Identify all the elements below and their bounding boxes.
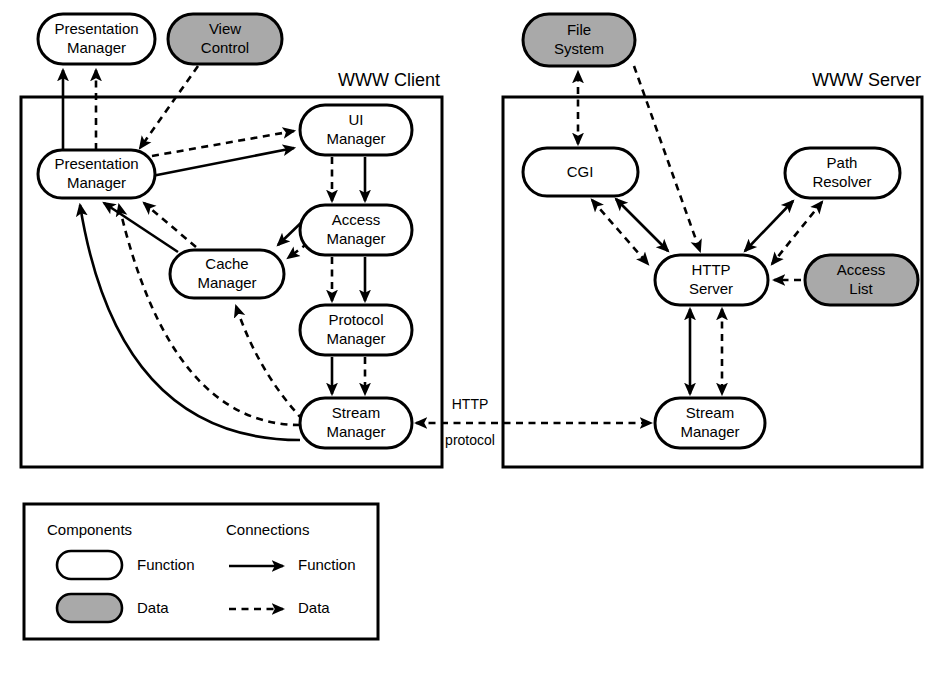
edge-stream-to-pm-data <box>119 205 300 425</box>
legend-function-shape-label: Function <box>137 556 195 573</box>
node-access-manager[interactable]: Access Manager <box>300 205 412 255</box>
node-label-line2: Resolver <box>812 173 871 190</box>
node-label-line1: Access <box>332 211 380 228</box>
node-stream-manager-client[interactable]: Stream Manager <box>300 398 412 448</box>
legend: Components Connections Function Data Fun… <box>24 504 378 639</box>
node-view-control[interactable]: View Control <box>168 14 282 64</box>
node-label-line2: Manager <box>67 174 126 191</box>
node-presentation-manager-client[interactable]: Presentation Manager <box>38 150 155 198</box>
architecture-diagram: WWW Client WWW Server <box>0 0 934 673</box>
node-label-line2: Server <box>689 280 733 297</box>
node-protocol-manager[interactable]: Protocol Manager <box>300 305 412 355</box>
edge-cache-to-pm-data <box>144 203 196 247</box>
legend-data-shape-swatch <box>57 594 122 622</box>
node-label-line1: UI <box>349 111 364 128</box>
http-protocol-label-line1: HTTP <box>452 396 489 412</box>
node-cache-manager[interactable]: Cache Manager <box>170 250 284 298</box>
node-label-line2: Manager <box>680 423 739 440</box>
node-label-line2: Manager <box>197 274 256 291</box>
edge-cache-to-pm-function <box>104 203 178 252</box>
node-label-line2: System <box>554 40 604 57</box>
edge-path-resolver-http-server-function <box>745 201 793 251</box>
node-stream-manager-server[interactable]: Stream Manager <box>655 398 765 448</box>
node-label-line2: Manager <box>326 130 385 147</box>
legend-data-arrow-label: Data <box>298 599 330 616</box>
node-label-line1: Presentation <box>54 155 138 172</box>
node-label-line2: Manager <box>326 330 385 347</box>
node-access-list[interactable]: Access List <box>805 255 918 305</box>
edge-cgi-http-server-function <box>616 199 668 251</box>
edge-path-resolver-http-server-data <box>772 202 822 264</box>
node-label-line2: Control <box>201 39 249 56</box>
node-label-line1: Protocol <box>328 311 383 328</box>
edge-view-control-to-pm-data <box>140 66 198 148</box>
node-label-line1: CGI <box>567 163 594 180</box>
node-http-server[interactable]: HTTP Server <box>655 255 768 305</box>
legend-data-shape-label: Data <box>137 599 169 616</box>
node-label-line1: Cache <box>205 255 248 272</box>
node-path-resolver[interactable]: Path Resolver <box>785 148 900 198</box>
edge-stream-to-pm-function <box>80 205 300 440</box>
edge-cgi-http-server-data <box>592 200 648 264</box>
node-label-line1: Presentation <box>54 20 138 37</box>
node-label-line1: Stream <box>332 404 380 421</box>
server-boundary-label: WWW Server <box>812 70 921 90</box>
legend-function-arrow-label: Function <box>298 556 356 573</box>
node-cgi[interactable]: CGI <box>523 148 638 196</box>
node-label-line2: List <box>849 280 873 297</box>
legend-heading-components: Components <box>47 521 132 538</box>
client-boundary-label: WWW Client <box>338 70 440 90</box>
node-presentation-manager-external[interactable]: Presentation Manager <box>38 14 155 64</box>
node-label-line1: Path <box>827 154 858 171</box>
legend-heading-connections: Connections <box>226 521 309 538</box>
legend-function-shape-swatch <box>57 551 122 579</box>
diagram-canvas: WWW Client WWW Server <box>0 0 934 673</box>
http-protocol-label-line2: protocol <box>445 432 495 448</box>
node-label-line2: Manager <box>326 423 385 440</box>
node-ui-manager[interactable]: UI Manager <box>300 105 412 155</box>
node-label-line1: View <box>209 20 241 37</box>
node-label-line2: Manager <box>67 39 126 56</box>
node-file-system[interactable]: File System <box>523 14 635 66</box>
edge-pm-to-ui-manager-function <box>152 148 294 176</box>
edge-stream-to-cache-manager-data <box>236 306 303 420</box>
node-label-line1: HTTP <box>691 261 730 278</box>
node-label-line2: Manager <box>326 230 385 247</box>
node-label-line1: Access <box>837 261 885 278</box>
node-label-line1: File <box>567 21 591 38</box>
node-label-line1: Stream <box>686 404 734 421</box>
edge-filesystem-to-http-server-data <box>634 66 700 251</box>
